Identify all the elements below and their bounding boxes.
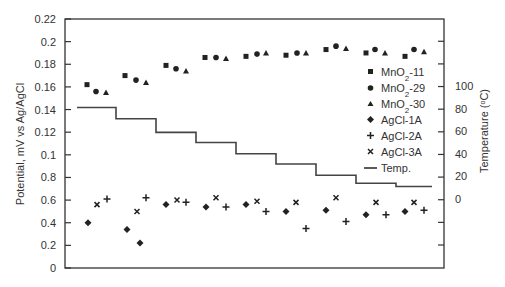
svg-text:MnO2-29: MnO2-29 [381,82,425,99]
svg-text:AgCl-2A: AgCl-2A [381,130,423,142]
point-agcl-3a [214,195,219,200]
point-agcl-1a [323,207,330,214]
point-mno2-11 [203,55,208,60]
point-agcl-3a [374,200,379,205]
point-agcl-2a [303,225,310,232]
point-agcl-2a [183,199,190,206]
y-tick-label: 0.8 [41,171,56,183]
y2-axis-title: Temperature (oC) [478,89,490,173]
point-mno2-29 [93,89,99,95]
point-agcl-1a [283,208,290,215]
point-mno2-29 [213,55,219,61]
legend-item-agcl-2a: AgCl-2A [367,130,423,142]
point-agcl-3a [135,209,140,214]
point-agcl-1a [363,211,370,218]
point-mno2-30 [183,68,189,74]
y-axis-title: Potential, mV vs Ag/AgCl [14,83,26,205]
legend-item-agcl-3a: AgCl-3A [368,146,423,158]
point-mno2-29 [333,43,339,49]
point-agcl-3a [95,202,100,207]
legend-item-agcl-1a: AgCl-1A [367,114,423,126]
y2-tick-label: 20 [455,170,467,182]
y-tick-label: 0.4 [41,217,56,229]
point-agcl-3a [255,199,260,204]
point-mno2-29 [254,51,260,57]
point-mno2-29 [173,66,179,72]
point-agcl-2a [343,218,350,225]
point-agcl-1a [85,219,92,226]
point-agcl-1a [243,201,250,208]
y-tick-label: 0.12 [35,126,56,138]
point-mno2-30 [343,45,349,51]
y-tick-label: 0.14 [35,104,56,116]
svg-text:Temp.: Temp. [381,162,411,174]
point-mno2-11 [403,54,408,59]
point-agcl-3a [294,200,299,205]
legend-item-temp: Temp. [364,162,411,174]
point-mno2-30 [382,50,388,56]
point-agcl-1a [402,208,409,215]
point-mno2-11 [364,50,369,55]
temperature-step-line [77,107,432,186]
point-mno2-30 [103,90,109,96]
point-mno2-29 [411,47,417,53]
y-tick-label: 0.1 [41,149,56,161]
y2-tick-label: 40 [455,148,467,160]
point-mno2-11 [123,73,128,78]
data-points [85,43,428,246]
point-agcl-3a [334,195,339,200]
point-mno2-30 [303,50,309,56]
y-tick-label: 0.16 [35,81,56,93]
legend-item-mno2-11: MnO2-11 [368,66,424,83]
point-agcl-2a [383,211,390,218]
y-tick-label: 0.2 [41,36,56,48]
point-mno2-11 [324,47,329,52]
chart: 00.20.40.60.80.10.120.140.160.180.20.22 … [0,0,505,287]
point-mno2-29 [372,47,378,53]
y2-tick-label: 100 [455,80,473,92]
point-agcl-2a [104,195,111,202]
point-agcl-1a [203,203,210,210]
point-agcl-2a [143,194,150,201]
y2-tick-label: 80 [455,103,467,115]
legend-item-mno2-29: MnO2-29 [368,82,426,99]
point-mno2-11 [244,54,249,59]
point-mno2-11 [284,53,289,58]
point-mno2-29 [294,50,300,56]
plot-frame [65,19,444,268]
svg-text:MnO2-30: MnO2-30 [381,98,425,115]
point-agcl-3a [175,198,180,203]
svg-text:AgCl-1A: AgCl-1A [381,114,423,126]
y2-tick-label: 60 [455,125,467,137]
point-mno2-30 [421,49,427,55]
point-mno2-30 [263,50,269,56]
point-mno2-11 [164,63,169,68]
point-agcl-2a [421,207,428,214]
point-agcl-1a [163,201,170,208]
svg-text:AgCl-3A: AgCl-3A [381,146,423,158]
point-agcl-1a [124,226,131,233]
point-mno2-11 [85,82,90,87]
y2-tick-label: 0 [455,193,461,205]
point-mno2-29 [133,77,139,83]
y-tick-label: 0.18 [35,58,56,70]
right-axis-ticks: 020406080100 [438,41,473,245]
y-tick-label: 0.2 [41,239,56,251]
point-agcl-1a [137,240,144,247]
y-tick-label: 0 [50,262,56,274]
point-agcl-2a [263,208,270,215]
y-tick-label: 0.6 [41,194,56,206]
legend-item-mno2-30: MnO2-30 [368,98,426,115]
legend: MnO2-11 MnO2-29 MnO2-30 AgCl-1A AgCl-2A … [364,66,425,174]
point-agcl-2a [223,203,230,210]
point-mno2-30 [143,79,149,85]
svg-text:MnO2-11: MnO2-11 [381,66,424,83]
point-mno2-30 [223,56,229,62]
y-tick-label: 0.22 [35,13,56,25]
point-agcl-3a [412,200,417,205]
